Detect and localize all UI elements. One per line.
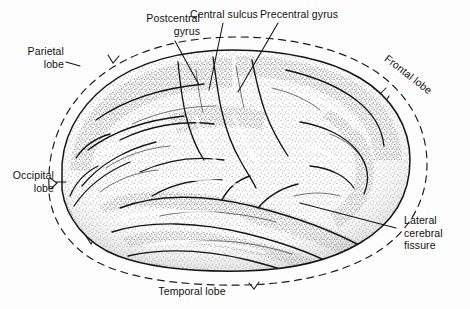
label-central-sulcus: Central sulcus — [178, 8, 270, 21]
cerebrum-body — [40, 35, 440, 290]
label-lateral-cerebral-fissure: Lateral cerebral fissure — [404, 214, 470, 252]
label-occipital-lobe: Occipital lobe — [0, 169, 54, 194]
brain-anatomy-figure: Postcentral gyrus Central sulcus Precent… — [0, 0, 470, 309]
brain-illustration — [0, 0, 470, 309]
label-parietal-lobe: Parietal lobe — [0, 45, 64, 70]
leader-parietal-lobe — [66, 62, 80, 66]
leader-frontal-lobe — [380, 88, 386, 94]
label-temporal-lobe: Temporal lobe — [128, 285, 256, 298]
label-precentral-gyrus: Precentral gyrus — [260, 8, 368, 21]
